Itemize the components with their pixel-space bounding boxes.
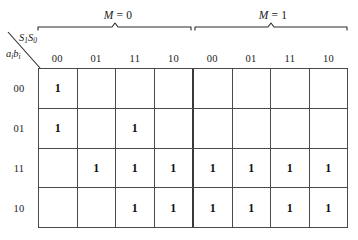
cell-value: 1 (55, 122, 61, 134)
cell-r2-c5: 1 (233, 149, 272, 188)
cell-value: 1 (55, 82, 61, 94)
cell-value: 1 (287, 202, 293, 214)
cell-r3-c2: 1 (116, 188, 155, 227)
cell-r1-c4 (194, 109, 233, 148)
column-header-3: 10 (154, 50, 193, 68)
cell-value: 1 (248, 162, 254, 174)
cell-value: 1 (287, 162, 293, 174)
column-header-2: 11 (116, 50, 155, 68)
cell-r2-c3: 1 (155, 149, 195, 188)
axis-variable-corner-cell: S1S0 aibi (6, 30, 38, 68)
cell-r3-c4: 1 (194, 188, 233, 227)
cell-value: 1 (248, 202, 254, 214)
column-header-7: 10 (309, 50, 348, 68)
row-header-2: 11 (0, 148, 38, 188)
column-header-row: 00 01 11 10 00 01 11 10 (38, 50, 348, 68)
row-header-1: 01 (0, 108, 38, 148)
row-header-3: 10 (0, 188, 38, 228)
cell-value: 1 (325, 162, 331, 174)
cell-r0-c0: 1 (39, 69, 78, 108)
cell-r0-c7 (310, 69, 349, 108)
cell-r2-c4: 1 (194, 149, 233, 188)
cell-r3-c5: 1 (233, 188, 272, 227)
column-header-0: 00 (38, 50, 77, 68)
group-label-m0-value: 0 (126, 9, 132, 21)
cell-r0-c4 (194, 69, 233, 108)
cell-r2-c6: 1 (271, 149, 310, 188)
table-row: 1 1 1 1 1 1 (39, 188, 348, 228)
cell-r0-c6 (271, 69, 310, 108)
cell-r3-c3: 1 (155, 188, 195, 227)
cell-r1-c0: 1 (39, 109, 78, 148)
cell-value: 1 (325, 202, 331, 214)
cell-r0-c5 (233, 69, 272, 108)
cell-r3-c7: 1 (310, 188, 349, 227)
cell-r2-c0 (39, 149, 78, 188)
column-header-4: 00 (193, 50, 232, 68)
row-header-column: 00 01 11 10 (0, 68, 38, 228)
group-label-m0: M = 0 (58, 9, 178, 21)
group-braces-svg (0, 0, 358, 48)
column-header-5: 01 (232, 50, 271, 68)
cell-value: 1 (170, 202, 176, 214)
column-header-1: 01 (77, 50, 116, 68)
cell-r0-c2 (116, 69, 155, 108)
cell-value: 1 (170, 162, 176, 174)
cell-value: 1 (132, 202, 138, 214)
cell-r1-c7 (310, 109, 349, 148)
table-row: 1 1 1 1 1 1 1 (39, 149, 348, 189)
cell-r1-c5 (233, 109, 272, 148)
group-label-m1-value: 1 (281, 9, 287, 21)
column-header-6: 11 (271, 50, 310, 68)
cell-r1-c3 (155, 109, 195, 148)
cell-r1-c2: 1 (116, 109, 155, 148)
group-brace-band: M = 0 M = 1 (0, 0, 358, 48)
group-label-m1-equals: = (268, 9, 281, 21)
cell-r2-c7: 1 (310, 149, 349, 188)
group-label-m0-equals: = (113, 9, 126, 21)
cell-r2-c2: 1 (116, 149, 155, 188)
karnaugh-map-figure: M = 0 M = 1 S1S0 aibi 00 01 11 10 00 01 … (0, 0, 358, 240)
cell-r0-c1 (78, 69, 117, 108)
cell-value: 1 (93, 162, 99, 174)
cell-value: 1 (132, 162, 138, 174)
column-variable-label: S1S0 (19, 32, 37, 43)
row-header-0: 00 (0, 68, 38, 108)
cell-value: 1 (210, 202, 216, 214)
group-label-m1: M = 1 (213, 9, 333, 21)
cell-r1-c6 (271, 109, 310, 148)
cell-r2-c1: 1 (78, 149, 117, 188)
cell-r3-c1 (78, 188, 117, 227)
kmap-grid: 1 1 1 1 1 1 1 1 1 1 (38, 68, 348, 228)
cell-value: 1 (132, 122, 138, 134)
cell-r3-c6: 1 (271, 188, 310, 227)
table-row: 1 (39, 69, 348, 109)
cell-r3-c0 (39, 188, 78, 227)
row-variable-label: aibi (6, 48, 21, 59)
cell-r1-c1 (78, 109, 117, 148)
table-row: 1 1 (39, 109, 348, 149)
cell-value: 1 (210, 162, 216, 174)
cell-r0-c3 (155, 69, 195, 108)
